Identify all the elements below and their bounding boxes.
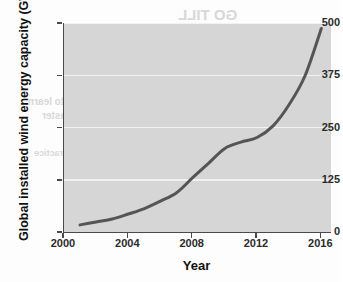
y-axis-tick-label: 375 [288,69,340,80]
y-axis-tick-label: 250 [288,122,340,133]
wind-capacity-line-path [80,28,321,224]
y-axis-tick-mark [57,179,62,181]
y-axis-tick-mark [57,231,62,233]
x-axis-title: Year [63,258,330,273]
y-axis-tick-label: 500 [288,17,340,28]
x-axis-tick-mark [320,233,322,238]
x-axis-tick-mark [191,233,193,238]
x-axis-tick-label: 2016 [297,238,343,249]
y-axis-tick-mark [57,127,62,129]
x-axis-tick-label: 2000 [40,238,86,249]
x-axis-tick-label: 2004 [104,238,150,249]
x-axis-tick-label: 2012 [233,238,279,249]
y-axis-tick-mark [57,22,62,24]
y-axis-tick-label: 0 [288,226,340,237]
x-axis-tick-mark [255,233,257,238]
x-axis-tick-mark [127,233,129,238]
x-axis-tick-mark [62,233,64,238]
y-axis-title: Global installed wind energy capacity (G… [17,9,31,241]
ghost-text-line-1: GO TILL [178,6,237,23]
y-axis-tick-label: 125 [288,174,340,185]
y-axis-tick-mark [57,75,62,77]
ghost-text-line-3: to learn [28,96,64,107]
x-axis-tick-label: 2008 [169,238,215,249]
